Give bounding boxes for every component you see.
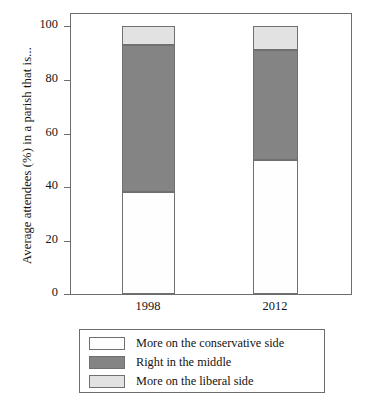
legend-item-conservative[interactable]: More on the conservative side [80,334,324,352]
legend-swatch-liberal [89,375,125,388]
y-tick-60: 60 [0,134,70,135]
legend-item-middle[interactable]: Right in the middle [80,353,324,371]
plot-area [70,13,352,295]
bar-segment-1998-conservative[interactable] [122,192,175,294]
bar-2012[interactable] [253,26,298,294]
y-tick-label-40: 40 [46,178,58,193]
y-tick-label-60: 60 [46,125,58,140]
bar-segment-1998-middle[interactable] [122,45,175,192]
bar-1998[interactable] [122,26,175,294]
chart-legend: More on the conservative side Right in t… [79,329,325,393]
y-tick-label-80: 80 [46,71,58,86]
y-tick-label-20: 20 [46,232,58,247]
legend-swatch-middle [89,356,125,369]
legend-label-middle: Right in the middle [136,356,231,368]
chart-figure: Average attendees (%) in a parish that i… [0,0,367,401]
y-tick-20: 20 [0,241,70,242]
bar-segment-2012-liberal[interactable] [253,26,298,50]
y-tick-80: 80 [0,80,70,81]
x-tick-label-2012: 2012 [263,299,288,314]
x-tick-label-1998: 1998 [136,299,161,314]
legend-swatch-conservative [89,337,125,350]
y-axis-title: Average attendees (%) in a parish that i… [20,11,35,301]
bar-segment-2012-conservative[interactable] [253,160,298,294]
y-tick-label-100: 100 [39,17,58,32]
legend-label-liberal: More on the liberal side [136,375,253,387]
bar-segment-1998-liberal[interactable] [122,26,175,45]
bar-segment-2012-middle[interactable] [253,50,298,160]
y-tick-40: 40 [0,187,70,188]
y-tick-label-0: 0 [52,285,58,300]
legend-item-liberal[interactable]: More on the liberal side [80,372,324,390]
y-tick-0: 0 [0,294,70,295]
legend-label-conservative: More on the conservative side [136,337,284,349]
y-tick-100: 100 [0,26,70,27]
